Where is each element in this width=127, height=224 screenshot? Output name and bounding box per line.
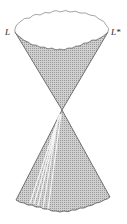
upper-cone xyxy=(15,11,109,111)
lower-cone xyxy=(16,110,110,212)
label-l-star: L* xyxy=(110,27,121,37)
light-cone-diagram: L L* xyxy=(0,0,127,224)
label-l: L xyxy=(4,27,10,37)
